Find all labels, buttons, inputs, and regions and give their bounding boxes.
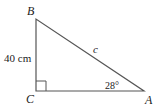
triangle-diagram: B C A 40 cm c 28° [0, 0, 158, 107]
side-label-bc: 40 cm [4, 52, 32, 64]
vertex-label-b: B [27, 4, 35, 18]
angle-label-a: 28° [105, 80, 119, 91]
right-angle-marker [36, 81, 46, 91]
triangle-abc [36, 19, 144, 91]
vertex-label-a: A [144, 93, 153, 107]
side-label-ab: c [93, 43, 98, 55]
vertex-label-c: C [26, 92, 35, 106]
